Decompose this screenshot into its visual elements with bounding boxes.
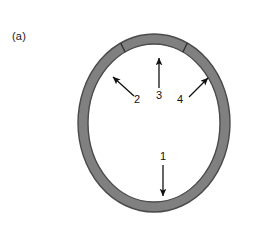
figure-panel-a: (a) 1 2 3 [0, 0, 259, 235]
ring-inner-edge [88, 44, 220, 202]
annulus-group [78, 34, 230, 212]
arrow-2-label: 2 [134, 93, 140, 105]
arrow-1-label: 1 [160, 150, 166, 162]
ring-diagram: 1 2 3 4 [0, 0, 259, 235]
arrow-4-label: 4 [177, 93, 183, 105]
arrow-3-label: 3 [156, 89, 162, 101]
